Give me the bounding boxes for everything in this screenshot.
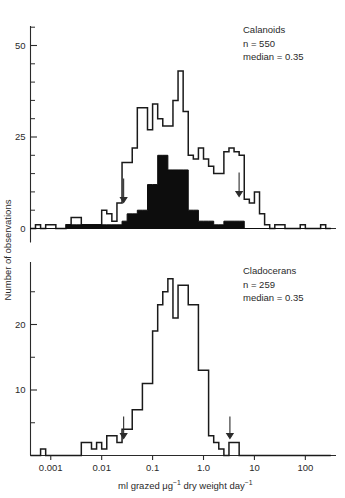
- annotation-sample-size-label-calanoids: n = 550: [243, 38, 275, 49]
- x-tick-label-0.01: 0.01: [92, 462, 111, 473]
- y-tick-label-cladocerans-10: 10: [15, 384, 26, 395]
- median-range-arrow-calanoids-2: [236, 173, 242, 197]
- y-tick-label-calanoids-50: 50: [15, 40, 26, 51]
- annotation-median-label-cladocerans: median = 0.35: [243, 292, 303, 303]
- histogram-cladocerans-open: [30, 279, 330, 456]
- annotation-taxon-label-calanoids: Calanoids: [243, 24, 285, 35]
- x-axis-title: ml grazed μg−1 dry weight day−1: [118, 479, 253, 491]
- x-tick-label-0.1: 0.1: [146, 462, 159, 473]
- y-tick-label-calanoids-25: 25: [15, 131, 26, 142]
- annotation-median-label-calanoids: median = 0.35: [243, 51, 303, 62]
- x-tick-label-0.001: 0.001: [39, 462, 63, 473]
- y-axis-title: Number of observations: [2, 199, 13, 300]
- annotation-taxon-label-cladocerans: Cladocerans: [243, 265, 297, 276]
- x-tick-label-1.0: 1.0: [197, 462, 210, 473]
- x-tick-label-10: 10: [249, 462, 260, 473]
- median-range-arrow-cladocerans-2: [227, 417, 233, 439]
- annotation-sample-size-label-cladocerans: n = 259: [243, 279, 275, 290]
- y-tick-label-cladocerans-20: 20: [15, 319, 26, 330]
- y-tick-label-calanoids-0: 0: [20, 223, 25, 234]
- figure-canvas: 02550Calanoidsn = 550median = 0.351020Cl…: [0, 0, 345, 498]
- histogram-figure: 02550Calanoidsn = 550median = 0.351020Cl…: [0, 0, 345, 498]
- median-range-arrow-cladocerans-1: [120, 417, 126, 439]
- x-tick-label-100: 100: [297, 462, 313, 473]
